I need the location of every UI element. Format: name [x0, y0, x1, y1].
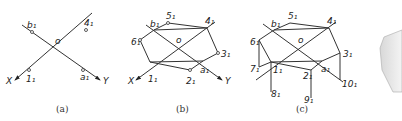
- label-3-1: 3₁: [343, 49, 353, 59]
- label-o: o: [176, 35, 182, 45]
- label-o: o: [55, 36, 61, 46]
- label-5-1: 5₁: [166, 11, 176, 21]
- label-y: Y: [103, 76, 110, 86]
- point-b1: [31, 31, 34, 34]
- label-8-1: 8₁: [271, 89, 281, 99]
- label-2-1: 2₁: [303, 71, 313, 81]
- label-7-1: 7₁: [250, 64, 260, 74]
- y-axis-line: [146, 25, 222, 80]
- point-1-1: [28, 69, 31, 72]
- label-1-1: 1₁: [148, 74, 158, 84]
- label-4-1: 4₁: [327, 16, 337, 26]
- isometric-construction-diagram: b₁ 4₁ o X 1₁ a₁ Y (a) b₁ 5₁ 4₁ 6₁ o 3₁ X…: [0, 0, 402, 121]
- label-6-1: 6₁: [131, 37, 141, 47]
- label-b1: b₁: [150, 19, 160, 29]
- label-x: X: [127, 76, 135, 86]
- label-6-1: 6₁: [250, 37, 260, 47]
- label-5-1: 5₁: [288, 11, 298, 21]
- caption-b: (b): [176, 104, 189, 114]
- label-b1: b₁: [271, 19, 281, 29]
- label-x: X: [5, 76, 13, 86]
- label-4-1: 4₁: [84, 18, 94, 28]
- figure-c: b₁ 5₁ 4₁ 6₁ o 3₁ 7₁ 1₁ 2₁ a₁ 8₁ 9₁ 10₁ (…: [250, 11, 357, 114]
- label-a1: a₁: [200, 65, 210, 75]
- label-2-1: 2₁: [186, 76, 196, 86]
- label-a1: a₁: [80, 72, 90, 82]
- edge-1-a1: [150, 61, 203, 62]
- label-b1: b₁: [27, 20, 37, 30]
- label-a1: a₁: [321, 64, 331, 74]
- label-10-1: 10₁: [342, 79, 357, 89]
- caption-c: (c): [296, 104, 308, 114]
- figure-a: b₁ 4₁ o X 1₁ a₁ Y (a): [5, 13, 110, 114]
- label-y: Y: [225, 76, 232, 86]
- edge-b1-4: [154, 28, 207, 30]
- prism-render-partial: [380, 30, 402, 92]
- label-4-1: 4₁: [205, 16, 215, 26]
- caption-a: (a): [56, 104, 68, 114]
- label-1-1: 1₁: [273, 65, 283, 75]
- hexagon-outline: [140, 23, 218, 70]
- label-o: o: [298, 35, 304, 45]
- figure-b: b₁ 5₁ 4₁ 6₁ o 3₁ X 1₁ 2₁ a₁ Y (b): [127, 11, 232, 114]
- label-1-1: 1₁: [26, 74, 36, 84]
- label-3-1: 3₁: [221, 49, 231, 59]
- point-4-1: [85, 29, 88, 32]
